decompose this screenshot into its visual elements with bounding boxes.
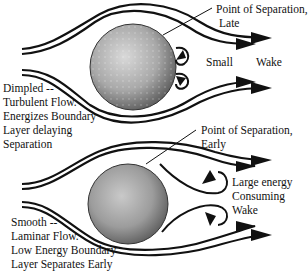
description-line: Energizes Boundary (3, 109, 96, 123)
wake-label-line: Consuming (232, 189, 293, 203)
large-wake-vortices (160, 164, 227, 232)
description-line: Dimpled -- (3, 81, 96, 95)
wake-arrowheads (202, 170, 216, 226)
separation-label-line: Point of Separation, (201, 123, 293, 137)
description-line: Laminar Flow. (11, 229, 116, 243)
description-line: Low Energy Boundary (11, 243, 116, 257)
description-line: Separation (3, 137, 96, 151)
separation-label-line: Late (216, 16, 308, 30)
separation-label-line: Point of Separation, (216, 2, 308, 16)
description-line: Layer delaying (3, 123, 96, 137)
top-separation-label: Point of Separation, Late (216, 2, 308, 30)
top-separation-pointer (163, 8, 212, 35)
small-label: Small (206, 55, 233, 69)
wake-label-line: Wake (232, 203, 293, 217)
large-wake-label: Large energy Consuming Wake (232, 175, 293, 217)
wake-label-line: Large energy (232, 175, 293, 189)
smooth-description: Smooth -- Laminar Flow. Low Energy Bound… (11, 215, 116, 271)
bottom-separation-label: Point of Separation, Early (201, 123, 293, 151)
vortex-arrowheads (176, 50, 186, 86)
description-line: Smooth -- (11, 215, 116, 229)
wake-label: Wake (256, 55, 282, 69)
description-line: Layer Separates Early (11, 257, 116, 271)
separation-label-line: Early (201, 137, 293, 151)
description-line: Turbulent Flow. (3, 95, 96, 109)
dimpled-description: Dimpled -- Turbulent Flow. Energizes Bou… (3, 81, 96, 151)
